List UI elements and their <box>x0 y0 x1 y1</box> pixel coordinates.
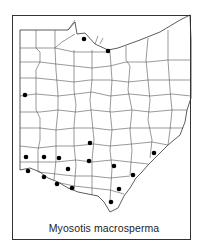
occurrence-dot <box>106 49 111 54</box>
occurrence-dot <box>66 167 71 172</box>
occurrence-dot <box>24 155 29 160</box>
occurrence-dot <box>57 156 62 161</box>
occurrence-dot <box>42 175 47 180</box>
ohio-county-map <box>0 0 208 251</box>
county-boundaries <box>20 15 191 212</box>
occurrence-dot <box>152 151 157 156</box>
occurrence-dot <box>88 141 93 146</box>
species-caption: Myosotis macrosperma <box>0 222 208 234</box>
occurrence-dot <box>23 93 28 98</box>
occurrence-dot <box>70 186 75 191</box>
occurrence-dot <box>117 187 122 192</box>
occurrence-dot <box>42 155 47 160</box>
occurrence-dot <box>131 173 136 178</box>
occurrence-dot <box>55 182 60 187</box>
occurrence-dot <box>26 169 31 174</box>
occurrence-dot <box>112 164 117 169</box>
occurrence-dot <box>87 159 92 164</box>
occurrence-dot <box>82 37 87 42</box>
occurrence-dot <box>109 200 114 205</box>
